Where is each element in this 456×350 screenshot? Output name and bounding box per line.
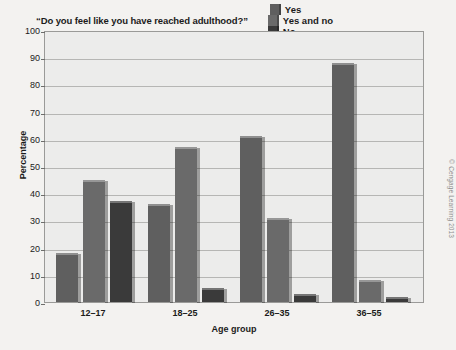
bar-top-highlight <box>386 297 408 299</box>
bar-side-shadow <box>224 289 227 303</box>
bar-top-highlight <box>332 63 354 65</box>
bar-side-shadow <box>197 148 200 303</box>
bar-side-shadow <box>354 64 357 303</box>
bar-top-highlight <box>240 136 262 138</box>
bar[interactable] <box>294 294 316 302</box>
x-axis-category-label: 18–25 <box>172 308 197 318</box>
bar-side-shadow <box>105 181 108 303</box>
y-axis-tick-label: 60 <box>8 135 40 145</box>
bar-top-highlight <box>267 218 289 220</box>
bar-top-highlight <box>56 253 78 255</box>
y-axis-tick-label: 90 <box>8 53 40 63</box>
bar-side-shadow <box>132 202 135 303</box>
y-axis-tick-mark <box>41 304 45 305</box>
bar-side-shadow <box>408 298 411 303</box>
bar-top-highlight <box>110 201 132 203</box>
legend-entry-yes-and-no[interactable]: Yes and no <box>268 15 333 26</box>
y-axis-tick-label: 50 <box>8 162 40 172</box>
bar[interactable] <box>202 288 224 302</box>
bar-side-shadow <box>381 281 384 303</box>
bar[interactable] <box>386 297 408 302</box>
bar[interactable] <box>267 218 289 302</box>
legend-entry-yes[interactable]: Yes <box>270 4 333 15</box>
x-axis-category-label: 26–35 <box>264 308 289 318</box>
chart-legend: “Do you feel like you have reached adult… <box>36 11 432 29</box>
x-axis-category-label: 36–55 <box>356 308 381 318</box>
legend-label: Yes and no <box>283 15 333 26</box>
x-axis-title: Age group <box>44 324 424 334</box>
y-axis-tick-label: 0 <box>8 298 40 308</box>
y-axis-tick-label: 20 <box>8 244 40 254</box>
bar[interactable] <box>110 201 132 302</box>
bar-top-highlight <box>175 147 197 149</box>
bar-side-shadow <box>316 295 319 303</box>
bar-top-highlight <box>83 180 105 182</box>
bar-top-highlight <box>148 204 170 206</box>
y-axis-tick-label: 80 <box>8 80 40 90</box>
y-axis-tick-label: 40 <box>8 189 40 199</box>
y-axis-tick-label: 10 <box>8 271 40 281</box>
bar[interactable] <box>148 204 170 302</box>
legend-swatch-icon <box>270 4 281 15</box>
y-axis-tick-label: 70 <box>8 108 40 118</box>
bar-side-shadow <box>289 219 292 303</box>
bar-side-shadow <box>78 254 81 303</box>
chart-title: “Do you feel like you have reached adult… <box>36 15 248 26</box>
bars-layer <box>45 32 423 302</box>
legend-swatch-icon <box>268 15 279 26</box>
bar[interactable] <box>359 280 381 302</box>
bar-side-shadow <box>170 205 173 303</box>
bar[interactable] <box>332 63 354 302</box>
x-axis-category-label: 12–17 <box>80 308 105 318</box>
bar-top-highlight <box>294 294 316 296</box>
bar[interactable] <box>175 147 197 302</box>
chart-figure: “Do you feel like you have reached adult… <box>0 0 456 350</box>
legend-label: Yes <box>285 4 301 15</box>
bar[interactable] <box>240 136 262 302</box>
bar-side-shadow <box>262 137 265 303</box>
y-axis-tick-label: 30 <box>8 216 40 226</box>
plot-area <box>44 31 424 303</box>
bar[interactable] <box>83 180 105 302</box>
y-axis-tick-label: 100 <box>8 26 40 36</box>
y-axis-title: Percentage <box>18 110 28 200</box>
bar[interactable] <box>56 253 78 302</box>
copyright-credit: © Cengage Learning 2013 <box>448 159 455 238</box>
bar-top-highlight <box>359 280 381 282</box>
bar-top-highlight <box>202 288 224 290</box>
